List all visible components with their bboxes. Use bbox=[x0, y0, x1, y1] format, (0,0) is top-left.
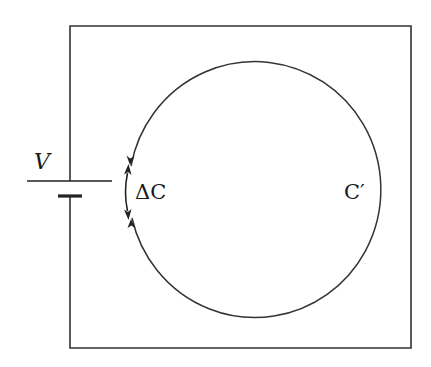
arrowhead-lower-arc-icon bbox=[128, 219, 136, 229]
delta-c-segment bbox=[126, 173, 128, 211]
c-prime-label: C′ bbox=[344, 180, 365, 204]
circuit-diagram: V ΔC C′ bbox=[0, 0, 431, 367]
delta-c-label: ΔC bbox=[135, 180, 166, 204]
battery-symbol bbox=[27, 181, 112, 196]
voltage-label: V bbox=[34, 149, 52, 174]
delta-c-double-arrow bbox=[124, 164, 132, 220]
